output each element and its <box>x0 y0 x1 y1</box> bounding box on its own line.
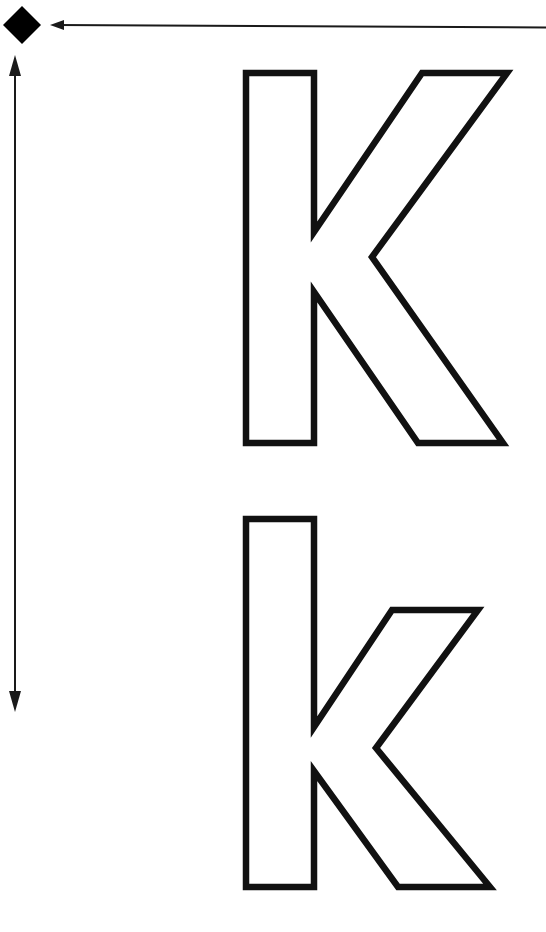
letter-worksheet-canvas <box>0 0 546 932</box>
drawing-page: K k Letter K tracing sheet <box>0 0 546 932</box>
